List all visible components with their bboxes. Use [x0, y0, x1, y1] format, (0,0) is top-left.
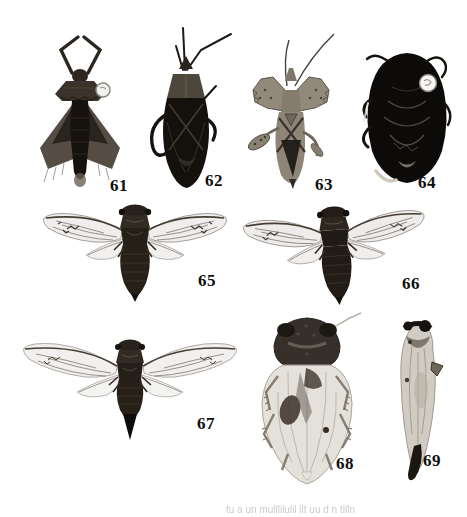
- body: [163, 98, 209, 188]
- thorax: [281, 90, 301, 114]
- cropped-caption-text: tu a un mulllilulil ilt uu d n tilln: [226, 505, 426, 513]
- figure-64: 64: [358, 43, 456, 191]
- specimen-plate: 61 62: [0, 0, 467, 517]
- body: [114, 205, 156, 303]
- tilted-group: [242, 200, 429, 311]
- figure-66-label: 66: [402, 275, 420, 292]
- figure-68-label: 68: [336, 455, 354, 472]
- left-wings: [24, 344, 120, 397]
- pin-label-dot: [420, 75, 437, 92]
- head: [72, 69, 88, 83]
- dark-spot: [405, 378, 409, 382]
- pin-head-dot: [96, 83, 110, 97]
- figure-64-label: 64: [418, 174, 436, 191]
- specimen-61-illustration: [28, 30, 133, 195]
- figure-67-label: 67: [197, 415, 215, 432]
- figure-65: 65: [18, 198, 233, 303]
- right-eye: [319, 323, 337, 337]
- body: [109, 340, 151, 441]
- left-wings: [44, 214, 126, 260]
- left-leg: [246, 128, 279, 153]
- specimen-64-illustration: [358, 43, 456, 191]
- figure-65-label: 65: [198, 272, 216, 289]
- left-wings: [243, 216, 327, 267]
- figure-63-label: 63: [315, 176, 333, 193]
- right-wings: [343, 209, 427, 260]
- figure-62: 62: [143, 22, 233, 194]
- antenna-bristle: [336, 313, 361, 326]
- figure-68: 68: [248, 312, 366, 488]
- specimen-63-illustration: [243, 28, 338, 193]
- antennae: [61, 37, 100, 73]
- thorax-spot: [408, 340, 412, 344]
- pale-blotch: [414, 372, 428, 408]
- figure-67: 67: [12, 330, 242, 442]
- figure-69-label: 69: [423, 452, 441, 469]
- right-leg: [303, 132, 325, 158]
- specimen-62-illustration: [143, 22, 233, 194]
- head: [285, 68, 297, 81]
- left-eye: [277, 323, 295, 337]
- abdomen-tip: [289, 179, 296, 189]
- figure-63: 63: [243, 28, 338, 193]
- figure-62-label: 62: [205, 172, 223, 189]
- right-wings: [140, 344, 236, 397]
- right-wings: [145, 214, 227, 260]
- abdomen-tip: [74, 173, 86, 187]
- figure-61: 61: [28, 30, 133, 195]
- figure-61-label: 61: [110, 177, 128, 194]
- abdomen: [70, 100, 90, 180]
- figure-66: 66: [240, 198, 436, 306]
- body: [367, 53, 446, 183]
- figure-69: 69: [388, 316, 450, 482]
